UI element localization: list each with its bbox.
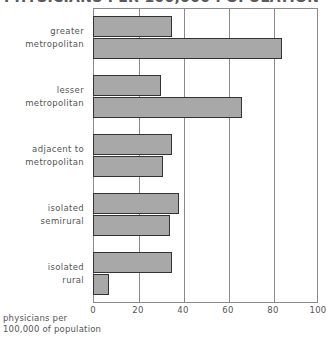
bar [93, 75, 161, 96]
category-label: lessermetropolitan [25, 84, 84, 109]
chart-title-text: PHYSICIANS PER 100,000 POPULATION [4, 0, 319, 5]
category-label-line: metropolitan [25, 38, 84, 51]
chart-title-cropped: PHYSICIANS PER 100,000 POPULATION [0, 0, 333, 6]
bar [93, 134, 172, 155]
bar [93, 16, 172, 37]
axis-caption-line2: 100,000 of population [3, 324, 123, 335]
category-label: isolatedrural [48, 261, 84, 286]
chart-plot-area [93, 8, 318, 303]
category-label-line: greater [25, 25, 84, 38]
bar [93, 252, 172, 273]
bars-layer [93, 8, 318, 303]
bar [93, 274, 109, 295]
category-label-line: semirural [41, 215, 84, 228]
category-label: isolatedsemirural [41, 202, 84, 227]
axis-caption-line1: physicians per [3, 313, 123, 324]
bar [93, 215, 170, 236]
category-label-line: metropolitan [25, 97, 84, 110]
category-label-line: isolated [41, 202, 84, 215]
x-tick-label-80: 80 [267, 305, 278, 315]
bar [93, 193, 179, 214]
x-tick-label-20: 20 [132, 305, 143, 315]
category-label: adjacent tometropolitan [25, 143, 84, 168]
bar [93, 156, 163, 177]
x-tick-label-60: 60 [222, 305, 233, 315]
category-label-line: adjacent to [25, 143, 84, 156]
x-tick-label-100: 100 [309, 305, 326, 315]
category-label-line: metropolitan [25, 156, 84, 169]
x-axis-caption: physicians per 100,000 of population [3, 313, 123, 335]
bar [93, 38, 282, 59]
bar [93, 97, 242, 118]
category-label-line: isolated [48, 261, 84, 274]
category-label: greatermetropolitan [25, 25, 84, 50]
x-tick-label-40: 40 [177, 305, 188, 315]
category-axis-labels: greatermetropolitanlessermetropolitanadj… [0, 8, 88, 303]
category-label-line: lesser [25, 84, 84, 97]
category-label-line: rural [48, 274, 84, 287]
